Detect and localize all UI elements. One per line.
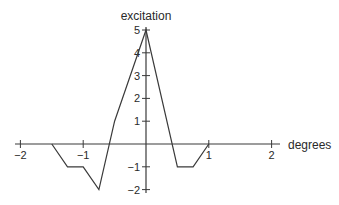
y-tick-label: −2 [127, 184, 140, 196]
y-tick-label: 5 [134, 24, 140, 36]
x-tick-label: −2 [14, 149, 27, 161]
x-tick-label: 1 [206, 149, 212, 161]
y-tick-label: −1 [127, 161, 140, 173]
y-tick-label: 1 [134, 115, 140, 127]
excitation-chart: −2−112−2−112345 degrees excitation [0, 0, 339, 205]
y-tick-label: 3 [134, 70, 140, 82]
x-tick-label: −1 [77, 149, 90, 161]
axes [15, 27, 280, 193]
ticks: −2−112−2−112345 [14, 24, 275, 196]
y-tick-label: 2 [134, 92, 140, 104]
y-axis-label: excitation [121, 9, 172, 23]
x-axis-label: degrees [288, 138, 331, 152]
x-tick-label: 2 [269, 149, 275, 161]
